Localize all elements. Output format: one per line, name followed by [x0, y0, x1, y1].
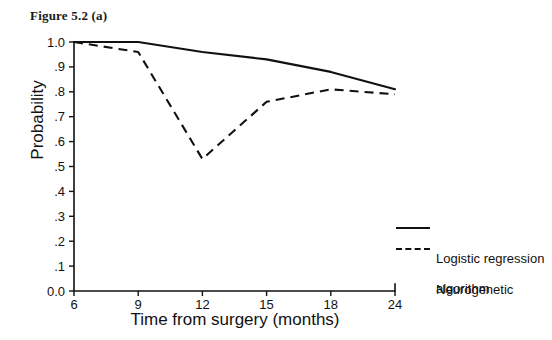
legend-swatch-solid-icon — [396, 227, 430, 229]
svg-text:.9: .9 — [54, 59, 65, 74]
svg-text:.1: .1 — [54, 259, 65, 274]
svg-text:.3: .3 — [54, 209, 65, 224]
legend-label-neurogenetic-line2: algorithm — [436, 281, 489, 296]
legend-item-neurogenetic-text: Neurogenetic — [396, 260, 546, 281]
series-line-neurogenetic-algorithm — [74, 42, 395, 159]
svg-text:15: 15 — [259, 297, 273, 312]
x-axis-ticks: 6912151824 — [70, 291, 402, 312]
chart-legend: Logistic regression Neurogenetic algorit… — [396, 218, 546, 302]
svg-text:.2: .2 — [54, 234, 65, 249]
svg-text:.6: .6 — [54, 134, 65, 149]
legend-swatch-dashed-icon — [396, 248, 430, 250]
legend-item-neurogenetic-algorithm: Logistic regression — [396, 239, 546, 260]
svg-text:9: 9 — [135, 297, 142, 312]
svg-text:0.0: 0.0 — [47, 284, 65, 299]
y-axis-ticks: 0.0.1.2.3.4.5.6.7.8.91.0 — [47, 35, 74, 299]
svg-text:1.0: 1.0 — [47, 35, 65, 50]
axis-frame — [74, 42, 395, 291]
svg-text:.4: .4 — [54, 184, 65, 199]
svg-text:.5: .5 — [54, 159, 65, 174]
svg-text:12: 12 — [195, 297, 209, 312]
figure-page: Figure 5.2 (a) Probability Time from sur… — [0, 0, 552, 340]
legend-item-logistic-regression — [396, 218, 546, 239]
svg-text:6: 6 — [70, 297, 77, 312]
svg-text:.8: .8 — [54, 84, 65, 99]
svg-text:18: 18 — [324, 297, 338, 312]
legend-item-neurogenetic-text2: algorithm — [396, 281, 546, 302]
svg-text:.7: .7 — [54, 109, 65, 124]
